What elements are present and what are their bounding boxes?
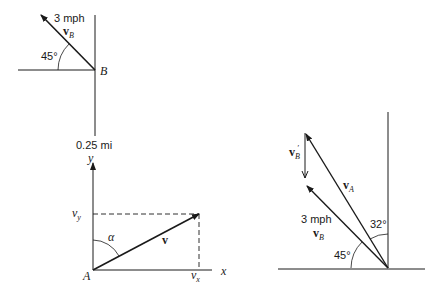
vector-v-label: v — [162, 233, 168, 247]
angle-alpha-label: α — [108, 230, 115, 244]
va-label: vA — [343, 178, 354, 194]
vb-prime-label: vB′ — [289, 144, 300, 161]
angle-alpha-arc — [93, 240, 119, 256]
angle-32-label: 32° — [370, 218, 387, 230]
point-b-label: B — [100, 64, 108, 78]
velocity-va-arrow — [306, 134, 388, 268]
angle-arc-32 — [370, 234, 388, 239]
angle-arc-45 — [351, 242, 362, 268]
angle-arc-45 — [58, 44, 69, 70]
speed-label: 3 mph — [54, 12, 85, 24]
origin-a-label: A — [82, 269, 91, 283]
angle-45-label: 45° — [334, 249, 351, 261]
vb-label: vB — [313, 226, 324, 242]
figure-river-crossing: 3 mph vB 45° B 0.25 mi — [18, 12, 112, 151]
distance-label: 0.25 mi — [76, 139, 112, 151]
diagram-canvas: 3 mph vB 45° B 0.25 mi y x vy vx α v A v… — [0, 0, 438, 290]
figure-vector-components: y x vy vx α v A — [72, 151, 227, 284]
vy-label: vy — [72, 206, 81, 222]
vector-vb-label: vB — [63, 24, 74, 40]
x-axis-label: x — [220, 264, 227, 278]
y-axis-label: y — [87, 151, 94, 165]
speed-label: 3 mph — [301, 213, 332, 225]
angle-45-label: 45° — [41, 50, 58, 62]
figure-velocity-triangle: vB′ vA 3 mph vB 32° 45° — [278, 112, 425, 269]
